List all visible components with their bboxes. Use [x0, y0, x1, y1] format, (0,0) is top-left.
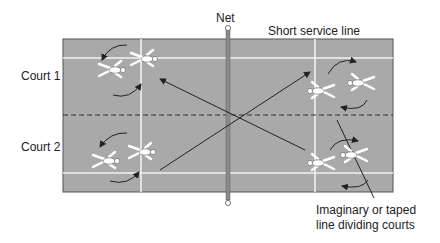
court1-label: Court 1 — [21, 69, 60, 83]
divider-label-line2: line dividing courts — [316, 218, 415, 232]
net-label: Net — [216, 11, 235, 25]
net-post-top — [225, 25, 230, 30]
net-post-bottom — [225, 200, 230, 205]
short-service-line-label: Short service line — [268, 24, 360, 38]
divider-label-line1: Imaginary or taped — [316, 203, 416, 217]
court2-label: Court 2 — [21, 140, 60, 154]
net — [226, 30, 230, 200]
